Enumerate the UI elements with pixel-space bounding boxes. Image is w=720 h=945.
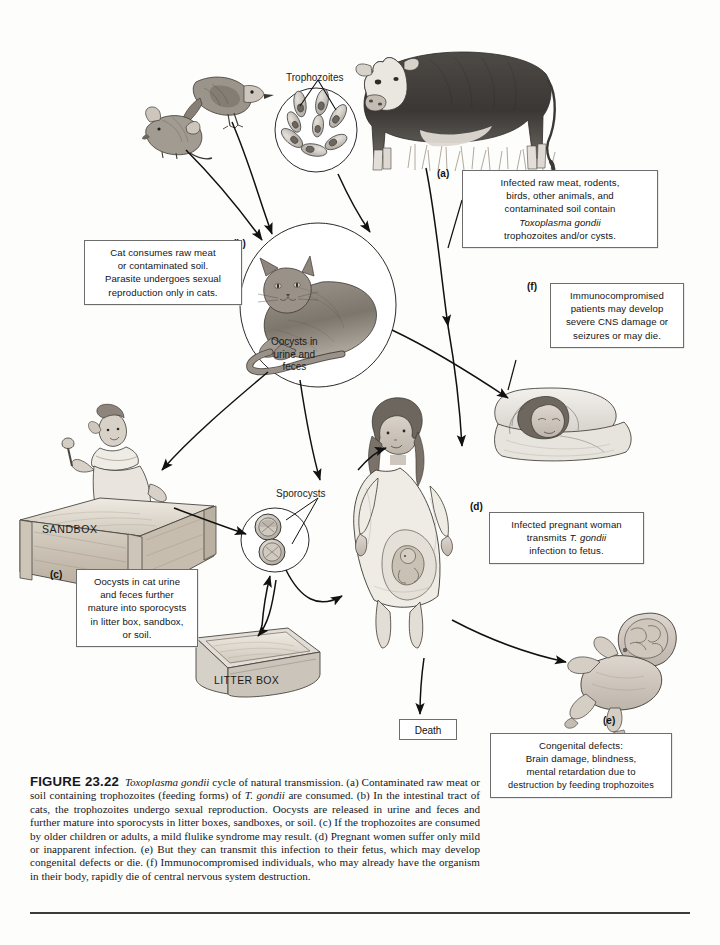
caption-species-short: T. gondii bbox=[245, 789, 285, 801]
callout-b-line4: reproduction only in cats. bbox=[91, 286, 235, 299]
connector-f bbox=[508, 360, 516, 390]
marker-a: (a) bbox=[437, 168, 449, 179]
cow-illustration bbox=[356, 52, 555, 175]
arrow-litterbox-to-sporocysts bbox=[262, 576, 270, 626]
callout-b-line3: Parasite undergoes sexual bbox=[91, 272, 235, 285]
callout-e-line1: Congenital defects: bbox=[497, 739, 665, 752]
callout-c-line2: and feces further bbox=[83, 588, 191, 601]
callout-a: Infected raw meat, rodents, birds, other… bbox=[462, 170, 658, 248]
arrow-trophozoites-to-cat bbox=[338, 174, 370, 232]
pregnant-woman-illustration bbox=[354, 398, 453, 648]
arrow-woman-to-infant bbox=[452, 620, 566, 662]
callout-f-line4: seizures or may die. bbox=[557, 329, 677, 342]
arrow-to-pregnant-woman bbox=[448, 326, 462, 446]
label-oocysts-in-urine-and-feces: Oocysts in urine and feces bbox=[271, 336, 318, 374]
marker-f: (f) bbox=[527, 281, 537, 292]
callout-a-line2: birds, other animals, and bbox=[469, 189, 651, 202]
callout-a-line5: trophozoites and/or cysts. bbox=[469, 229, 651, 242]
caption-species-full: Toxoplasma gondii bbox=[125, 776, 210, 788]
callout-d-line2-pre: transmits bbox=[527, 532, 570, 543]
callout-b: Cat consumes raw meat or contaminated so… bbox=[84, 240, 242, 305]
arrow-sporocysts-to-litterbox bbox=[258, 580, 276, 636]
label-trophozoites: Trophozoites bbox=[286, 72, 343, 85]
callout-b-line1: Cat consumes raw meat bbox=[91, 246, 235, 259]
callout-d: Infected pregnant woman transmits T. gon… bbox=[489, 512, 644, 564]
patient-in-bed-illustration bbox=[495, 388, 632, 461]
marker-d: (d) bbox=[470, 501, 483, 512]
figure-caption: FIGURE 23.22 Toxoplasma gondii cycle of … bbox=[30, 775, 480, 883]
arrow-sandbox-to-sporocysts bbox=[174, 508, 246, 534]
callout-f-line1: Immunocompromised bbox=[557, 289, 677, 302]
callout-c-line4: in litter box, sandbox, bbox=[83, 615, 191, 628]
callout-b-line2: or contaminated soil. bbox=[91, 259, 235, 272]
callout-d-species: T. gondii bbox=[569, 532, 606, 543]
label-litter-box: LITTER BOX bbox=[214, 674, 279, 687]
figure-page: Trophozoites Oocysts in urine and feces … bbox=[0, 0, 720, 945]
callout-f-line3: severe CNS damage or bbox=[557, 315, 677, 328]
callout-c-line5: or soil. bbox=[83, 628, 191, 641]
infant-illustration bbox=[565, 613, 676, 741]
label-sandbox: SANDBOX bbox=[42, 523, 98, 536]
death-box: Death bbox=[399, 719, 457, 740]
caption-rule bbox=[30, 912, 690, 914]
callout-e-line3: mental retardation due to bbox=[497, 765, 665, 778]
sporocyst-cluster-illustration bbox=[241, 498, 318, 572]
callout-c-line3: mature into sporocysts bbox=[83, 601, 191, 614]
label-sporocysts: Sporocysts bbox=[276, 488, 325, 501]
arrow-cat-to-sporocysts bbox=[300, 380, 320, 480]
callout-c: Oocysts in cat urine and feces further m… bbox=[76, 569, 198, 647]
trophozoite-cluster-illustration bbox=[275, 80, 357, 172]
arrow-bird-to-cat bbox=[232, 122, 272, 234]
callout-f-line2: patients may develop bbox=[557, 302, 677, 315]
arrow-cat-to-patient-bed bbox=[392, 330, 508, 398]
callout-a-line1: Infected raw meat, rodents, bbox=[469, 176, 651, 189]
callout-c-line1: Oocysts in cat urine bbox=[83, 575, 191, 588]
caption-body-2: are consumed. (b) In the intestinal trac… bbox=[30, 789, 480, 881]
arrow-cat-to-sandbox bbox=[162, 372, 268, 470]
callout-e: Congenital defects: Brain damage, blindn… bbox=[490, 733, 672, 798]
callout-a-species: Toxoplasma gondii bbox=[519, 217, 600, 228]
marker-c: (c) bbox=[50, 569, 62, 580]
mouse-illustration bbox=[142, 107, 212, 159]
callout-e-line2: Brain damage, blindness, bbox=[497, 752, 665, 765]
bird-illustration bbox=[180, 77, 274, 129]
connector-a bbox=[448, 200, 462, 248]
arrow-up-to-woman bbox=[358, 448, 386, 470]
arrow-cow-to-woman-upper bbox=[426, 168, 448, 326]
arrow-mouse-to-cat bbox=[186, 150, 262, 240]
arrow-woman-to-death bbox=[420, 658, 424, 714]
callout-d-line3: infection to fetus. bbox=[496, 544, 637, 557]
callout-e-line4: destruction by feeding trophozoites bbox=[497, 779, 665, 792]
marker-e: (e) bbox=[603, 715, 615, 726]
arrow-sporocysts-to-woman bbox=[286, 570, 342, 602]
litter-box-illustration bbox=[196, 628, 320, 697]
cat-illustration bbox=[240, 223, 396, 387]
callout-d-line1: Infected pregnant woman bbox=[496, 518, 637, 531]
callout-a-line3: contaminated soil contain bbox=[469, 202, 651, 215]
figure-number: FIGURE 23.22 bbox=[30, 774, 119, 789]
callout-f: Immunocompromised patients may develop s… bbox=[550, 283, 684, 348]
